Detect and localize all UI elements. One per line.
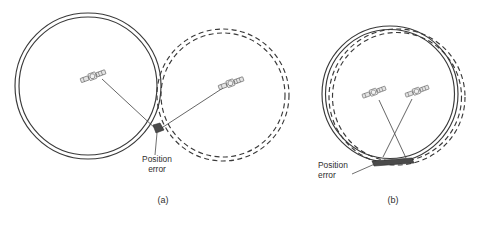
position-error-region-a <box>153 123 164 133</box>
dashed-range-outer-a <box>157 29 289 161</box>
position-error-leader-a <box>155 133 157 155</box>
panel-b: Position error (b) <box>318 26 465 205</box>
satellite-solar-panel-right <box>420 85 430 92</box>
range-ray-b-right <box>383 99 412 157</box>
diagram-canvas: Position error (a) <box>0 0 498 225</box>
position-error-leader-b <box>352 163 377 174</box>
position-error-label-a-line1: Position <box>142 154 172 164</box>
dashed-range-inner-a <box>161 33 285 157</box>
satellite-solar-panel-right <box>96 70 106 77</box>
dashed-range-inner-b <box>333 33 462 162</box>
range-ray-b-left <box>379 100 406 158</box>
range-ray-a-right <box>160 86 226 129</box>
panel-a-caption: (a) <box>158 195 169 205</box>
position-error-label-a-line2: error <box>148 164 166 174</box>
dashed-range-band-a <box>157 29 289 161</box>
satellite-solar-panel-right <box>377 86 387 93</box>
range-ray-a-left <box>102 79 157 130</box>
solid-range-band-a <box>15 13 161 159</box>
satellite-solar-panel-left <box>218 83 227 90</box>
panel-a: Position error (a) <box>15 13 289 205</box>
solid-range-inner-b <box>326 30 455 159</box>
satellite-a-left <box>80 68 107 83</box>
solid-range-inner-a <box>19 17 157 155</box>
satellite-b-left <box>361 85 386 99</box>
satellite-solar-panel-left <box>362 92 370 98</box>
position-error-label-b-line1: Position <box>318 160 348 170</box>
satellite-a-right <box>218 75 245 90</box>
position-error-label-b-line2: error <box>318 170 336 180</box>
satellite-solar-panel-left <box>80 76 89 83</box>
satellite-solar-panel-right <box>234 77 244 84</box>
solid-range-outer-a <box>15 13 161 159</box>
satellite-b-right <box>404 84 429 98</box>
panel-b-caption: (b) <box>388 195 399 205</box>
satellite-solar-panel-left <box>405 91 413 97</box>
figure-root: Position error (a) <box>0 0 498 225</box>
